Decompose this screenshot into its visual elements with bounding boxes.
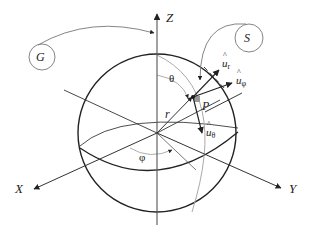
radius-vector [157, 97, 192, 133]
u-r-vector [193, 70, 219, 97]
u-r-label: ur [222, 58, 230, 71]
u-theta-label: uθ [206, 127, 215, 140]
axes [34, 14, 281, 225]
y-axis [157, 133, 281, 188]
callout-g-leader [38, 26, 154, 45]
callout-s-label: S [244, 32, 250, 44]
theta-label: θ [169, 73, 174, 84]
z-axis-label: Z [166, 11, 173, 24]
phi-arc [130, 148, 172, 155]
u-theta-sub: θ [212, 131, 216, 140]
point-p-label: P [202, 100, 209, 112]
callout-g-label: G [36, 51, 45, 63]
u-r-base: u [222, 58, 228, 69]
projection-line [157, 133, 196, 170]
y-axis-label: Y [289, 182, 296, 195]
radius-label: r [165, 108, 170, 120]
x-axis-label: X [15, 182, 23, 195]
u-phi-base: u [236, 75, 242, 86]
u-theta-vector [193, 97, 202, 133]
u-phi-sub: φ [242, 79, 247, 88]
u-theta-base: u [206, 127, 212, 138]
plane-line [205, 93, 242, 112]
phi-label: φ [139, 152, 145, 163]
u-phi-label: uφ [236, 75, 246, 88]
spherical-coordinates-diagram [0, 0, 315, 233]
meridian-arc [157, 55, 205, 212]
